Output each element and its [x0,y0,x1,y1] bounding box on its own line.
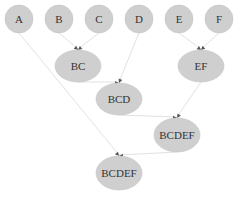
nodes-layer: ABCDEFBCEFBCDBCDEFBCDEF [5,5,233,190]
node-label: A [15,13,23,25]
node-label: D [135,13,143,25]
node-ef: EF [178,50,224,82]
node-bcdef2: BCDEF [96,156,142,190]
node-label: E [176,13,183,25]
node-f: F [205,5,233,33]
node-label: F [216,13,222,25]
edge-e-to-ef [179,33,201,49]
edge-b-to-bc [59,33,78,49]
edge-f-to-ef [201,33,219,49]
node-e: E [165,5,193,33]
edge-bcd-to-bcdef1 [119,115,177,117]
node-label: BCDEF [101,167,136,179]
node-label: B [55,13,62,25]
edge-d-to-bcd [119,33,139,82]
merge-tree-diagram: ABCDEFBCEFBCDBCDEFBCDEF [0,0,241,197]
node-bc: BC [55,50,101,82]
node-bcd: BCD [96,83,142,115]
node-label: BCDEF [159,129,194,141]
node-label: EF [195,60,208,72]
edge-ef-to-bcdef1 [177,82,201,117]
node-b: B [45,5,73,33]
edge-c-to-bc [78,33,99,49]
node-c: C [85,5,113,33]
node-label: BCD [108,93,131,105]
node-label: BC [71,60,86,72]
node-label: C [95,13,102,25]
node-d: D [125,5,153,33]
node-a: A [5,5,33,33]
edge-bcdef1-to-bcdef2 [119,152,177,155]
node-bcdef1: BCDEF [154,118,200,152]
